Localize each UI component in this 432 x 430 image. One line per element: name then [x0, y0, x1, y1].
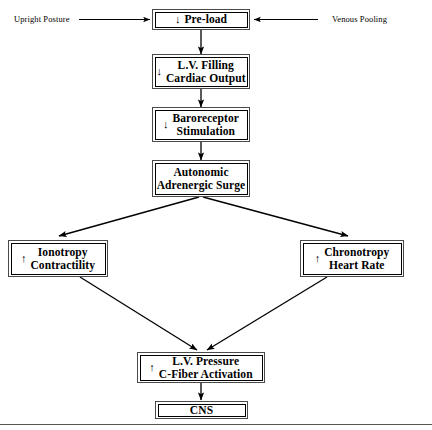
- node-ionotropy-contractility: ↑ Ionotropy Contractility: [8, 240, 108, 277]
- input-label-upright-posture: Upright Posture: [14, 14, 70, 24]
- node-ionotropy-text: Ionotropy Contractility: [30, 246, 95, 271]
- input-label-venous-pooling: Venous Pooling: [332, 14, 387, 24]
- wire-ionotropy-to-lv-pressure: [80, 277, 197, 350]
- flowchart-diagram: Upright Posture Venous Pooling ↓ Pre-loa…: [0, 0, 432, 430]
- node-pre-load: ↓ Pre-load: [152, 9, 250, 30]
- node-lv-filling: ↓ L.V. Filling Cardiac Output: [152, 54, 250, 89]
- node-pre-load-text: Pre-load: [184, 13, 227, 26]
- wire-autonomic-surge-to-ionotropy: [59, 197, 199, 236]
- decrease-arrow-icon: ↓: [163, 119, 169, 130]
- node-chronotropy-heart-rate: ↑ Chronotropy Heart Rate: [300, 240, 404, 277]
- node-baroreceptor-text: Baroreceptor Stimulation: [172, 112, 239, 137]
- increase-arrow-icon: ↑: [21, 253, 27, 264]
- increase-arrow-icon: ↑: [315, 253, 321, 264]
- node-autonomic-adrenergic-surge: Autonomic Adrenergic Surge: [152, 160, 250, 197]
- node-baroreceptor-stimulation: ↓ Baroreceptor Stimulation: [152, 107, 250, 142]
- increase-arrow-icon: ↑: [149, 362, 155, 373]
- wire-chronotropy-to-lv-pressure: [207, 277, 327, 350]
- node-cns-text: CNS: [190, 404, 213, 417]
- node-lv-pressure-text: L.V. Pressure C-Fiber Activation: [159, 355, 253, 380]
- node-lv-filling-text: L.V. Filling Cardiac Output: [166, 59, 246, 84]
- node-cns: CNS: [155, 401, 248, 419]
- decrease-arrow-icon: ↓: [156, 66, 162, 77]
- node-chronotropy-text: Chronotropy Heart Rate: [324, 246, 389, 271]
- wire-autonomic-surge-to-chronotropy: [203, 197, 348, 236]
- page-rule: [0, 424, 432, 425]
- decrease-arrow-icon: ↓: [175, 14, 181, 25]
- node-autonomic-surge-text: Autonomic Adrenergic Surge: [157, 166, 246, 191]
- node-lv-pressure-c-fiber: ↑ L.V. Pressure C-Fiber Activation: [137, 352, 265, 383]
